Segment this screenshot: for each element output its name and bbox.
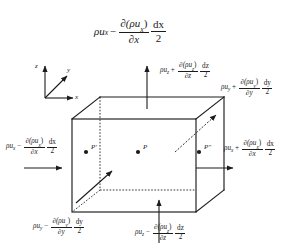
eq-xout-half-denominator: 2 <box>267 150 274 157</box>
eq-zout-derivative-fraction: ∂(ρuz) ∂z <box>178 62 199 80</box>
eq-yin-derivative-numerator: ∂(ρuy) <box>51 218 72 227</box>
eq-zin-half-numerator: dz <box>175 225 185 232</box>
eq-yin-half-fraction: dy 2 <box>74 219 84 236</box>
eq-xin-operator: − <box>15 143 22 150</box>
cube-front-face <box>72 119 196 212</box>
eq-xin-derivative-denominator: ∂x <box>29 149 39 156</box>
eq-zin-derivative-denominator: ∂z <box>158 235 168 242</box>
point-p-double-prime-label: P″ <box>204 143 211 151</box>
eq-yin-operator: − <box>42 223 49 230</box>
point-p-prime-dot <box>84 150 88 154</box>
point-p-dot <box>136 150 140 154</box>
eq-yout-half-numerator: dy <box>262 80 272 87</box>
cube-bottom-right-diagonal <box>196 190 224 212</box>
eq-zin-derivative-numerator: ∂(ρuz) <box>153 224 174 233</box>
eq-zout-derivative-denominator: ∂z <box>183 73 193 80</box>
y-axis-label: y <box>67 66 70 74</box>
eq-yin-u-sub: y <box>40 226 42 231</box>
eq-top-derivative-fraction: ∂(ρux) ∂x <box>119 18 149 45</box>
eq-xout-derivative-numerator: ∂(ρux) <box>242 140 263 149</box>
eq-yout-half-fraction: dy 2 <box>262 80 272 97</box>
cube-hidden-bottom-diagonal <box>72 190 100 212</box>
cube-hidden-edges <box>72 97 196 212</box>
eq-yin-derivative-denominator: ∂y <box>56 229 66 236</box>
eq-zout-half-fraction: dz 2 <box>200 63 210 80</box>
eq-yin-half-denominator: 2 <box>76 228 83 235</box>
eq-xout-half-fraction: dx 2 <box>265 141 275 158</box>
equation-z-outflow: ρuz + ∂(ρuz) ∂z dz 2 <box>160 62 212 80</box>
eq-xin-half-denominator: 2 <box>49 148 56 155</box>
eq-zin-derivative-fraction: ∂(ρuz) ∂z <box>153 224 174 242</box>
eq-zout-operator: + <box>169 67 176 74</box>
eq-zin-half-fraction: dz 2 <box>175 225 185 242</box>
eq-top-derivative-denominator: ∂x <box>127 34 141 45</box>
cube-top-right-diagonal <box>196 97 224 119</box>
eq-yout-derivative-fraction: ∂(ρuy) ∂y <box>239 79 260 97</box>
eq-xin-u-sub: x <box>13 146 15 151</box>
z-axis-label: z <box>35 62 38 70</box>
equation-x-inflow-top: ρux − ∂(ρux) ∂x dx 2 <box>94 18 167 45</box>
eq-zout-derivative-numerator: ∂(ρuz) <box>178 62 199 71</box>
eq-xin-half-numerator: dx <box>47 139 57 146</box>
eq-xout-operator: + <box>233 145 240 152</box>
equation-y-inflow: ρuy − ∂(ρuy) ∂y dy 2 <box>33 218 86 236</box>
y-axis-line <box>45 76 67 98</box>
eq-top-derivative-numerator: ∂(ρux) <box>119 18 149 32</box>
eq-top-operator: − <box>108 26 117 37</box>
eq-top-half-denominator: 2 <box>154 33 163 44</box>
equation-x-inflow: ρux − ∂(ρux) ∂x dx 2 <box>6 138 59 156</box>
eq-xin-half-fraction: dx 2 <box>47 139 57 156</box>
eq-yin-derivative-fraction: ∂(ρuy) ∂y <box>51 218 72 236</box>
eq-xout-half-numerator: dx <box>265 141 275 148</box>
point-p-label: P <box>143 143 147 151</box>
eq-zout-half-numerator: dz <box>200 63 210 70</box>
eq-yout-half-denominator: 2 <box>264 89 271 96</box>
cube-visible-edges <box>72 97 224 212</box>
equation-x-outflow: ρux + ∂(ρux) ∂x dx 2 <box>224 140 277 158</box>
eq-zin-operator: − <box>144 229 151 236</box>
eq-top-half-numerator: dx <box>151 19 165 30</box>
control-volume-figure: z y x P' P P″ ρux − ∂(ρux) ∂x dx 2 ρuz +… <box>0 0 298 249</box>
eq-yin-half-numerator: dy <box>74 219 84 226</box>
eq-yout-u-sub: y <box>228 87 230 92</box>
point-p-prime-label: P' <box>91 143 97 151</box>
eq-top-u-sub: x <box>105 29 108 37</box>
eq-xout-derivative-fraction: ∂(ρux) ∂x <box>242 140 263 158</box>
eq-zout-u-sub: z <box>167 70 169 75</box>
eq-zout-half-denominator: 2 <box>202 72 209 79</box>
equation-y-outflow: ρuy + ∂(ρuy) ∂y dy 2 <box>221 79 274 97</box>
eq-top-half-fraction: dx 2 <box>151 19 165 43</box>
eq-xout-derivative-denominator: ∂x <box>247 151 257 158</box>
equation-z-inflow: ρuz − ∂(ρuz) ∂z dz 2 <box>135 224 187 242</box>
eq-zin-half-denominator: 2 <box>177 234 184 241</box>
eq-zin-u-sub: z <box>142 232 144 237</box>
x-axis-label: x <box>75 93 78 101</box>
y-inflow-arrow <box>76 171 112 203</box>
eq-yout-operator: + <box>230 84 237 91</box>
eq-xin-derivative-numerator: ∂(ρux) <box>24 138 45 147</box>
eq-yout-derivative-denominator: ∂y <box>244 90 254 97</box>
eq-xout-u-sub: x <box>231 148 233 153</box>
eq-yout-derivative-numerator: ∂(ρuy) <box>239 79 260 88</box>
eq-xin-derivative-fraction: ∂(ρux) ∂x <box>24 138 45 156</box>
point-p-double-prime-dot <box>197 150 201 154</box>
